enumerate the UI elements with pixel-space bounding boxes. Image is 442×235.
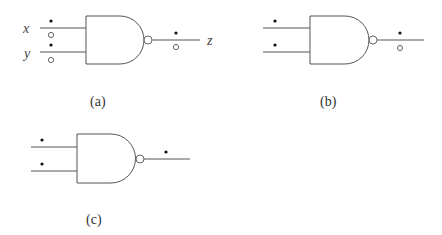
input-y-label: y [22,46,31,61]
token-filled-icon [49,43,52,46]
input-x-label: x [22,21,30,36]
token-empty-icon [48,57,53,62]
panel-b: (b) [263,16,424,110]
token-empty-icon [397,45,402,50]
token-filled-icon [174,31,177,34]
panel-a: x y z (a) [22,16,213,110]
token-filled-icon [40,162,43,165]
caption-b: (b) [320,94,337,110]
nand-gate-figure: x y z (a) (b) [0,0,442,235]
token-filled-icon [273,43,276,46]
token-filled-icon [164,150,167,153]
token-empty-icon [173,44,178,49]
caption-a: (a) [90,94,106,110]
nand-gate-body-icon [77,134,136,183]
panel-c: (c) [31,134,190,228]
token-filled-icon [398,31,401,34]
token-filled-icon [40,138,43,141]
token-filled-icon [273,19,276,22]
caption-c: (c) [86,212,102,228]
token-empty-icon [48,32,53,37]
inversion-bubble-icon [369,36,377,44]
output-z-label: z [206,33,213,48]
nand-gate-body-icon [310,16,369,64]
token-filled-icon [49,19,52,22]
inversion-bubble-icon [144,36,152,44]
inversion-bubble-icon [136,155,144,163]
nand-gate-body-icon [86,16,144,64]
